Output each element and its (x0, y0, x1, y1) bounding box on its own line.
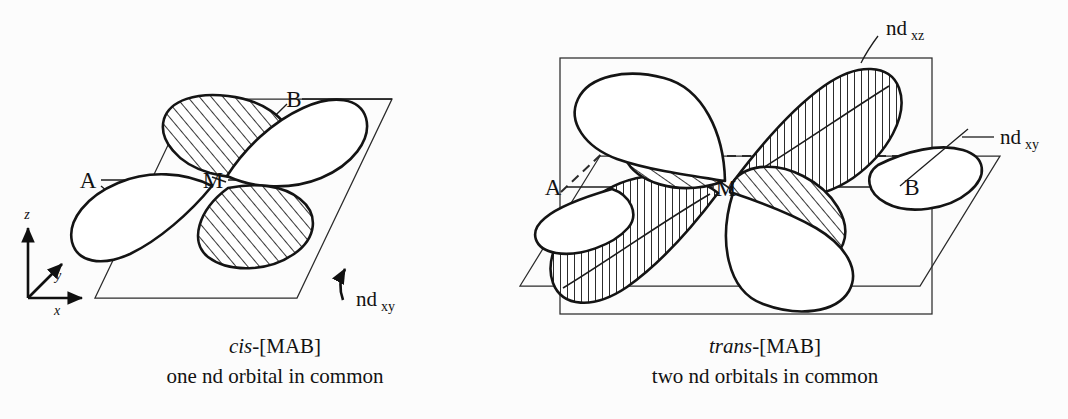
cis-ndxy-pointer-arrow (341, 269, 345, 300)
cis-ndxy-label-text: nd (356, 287, 378, 311)
caption-cis-title: cis-[MAB] (130, 332, 420, 362)
cis-orbital-label-ndxy: nd xy (341, 269, 395, 314)
panel-trans: A M B nd xz nd xy (520, 16, 1039, 314)
panel-cis: A M B z y x nd xy (23, 87, 395, 318)
trans-ndxy-label-text: nd (1000, 125, 1022, 149)
cis-lobe-lower-right-shaded (198, 185, 313, 268)
caption-cis: cis-[MAB] one nd orbital in common (130, 332, 420, 392)
caption-trans-title-italic: trans (709, 334, 752, 358)
caption-cis-subtitle: one nd orbital in common (130, 362, 420, 392)
trans-orbital-label-ndxz: nd xz (861, 16, 924, 63)
trans-lobe-ndxy-far-right-open (869, 147, 982, 209)
cis-ndxy-label-sub: xy (381, 299, 395, 314)
figure-root: A M B z y x nd xy (0, 0, 1068, 419)
caption-cis-title-rest: -[MAB] (252, 334, 321, 358)
trans-ndxz-leader-line (861, 36, 878, 63)
caption-trans-title-rest: -[MAB] (752, 334, 821, 358)
trans-ndxz-label-sub: xz (911, 28, 924, 43)
cis-axis-label-z: z (23, 207, 30, 222)
caption-trans: trans-[MAB] two nd orbitals in common (600, 332, 930, 392)
trans-vertex-label-M: M (716, 176, 736, 201)
cis-axis-label-y: y (53, 268, 62, 283)
cis-vertex-label-B: B (286, 87, 301, 112)
cis-axis-label-x: x (53, 303, 61, 318)
cis-vertex-label-M: M (203, 168, 223, 193)
trans-ndxy-label-sub: xy (1025, 137, 1039, 152)
caption-trans-subtitle: two nd orbitals in common (600, 362, 930, 392)
caption-cis-title-italic: cis (229, 334, 252, 358)
trans-ndxz-label-text: nd (886, 16, 908, 40)
trans-lobe-ndxy-upper-left-open (575, 74, 725, 181)
caption-trans-title: trans-[MAB] (600, 332, 930, 362)
trans-vertex-label-A: A (545, 175, 562, 200)
trans-vertex-label-B: B (904, 175, 919, 200)
cis-vertex-label-A: A (80, 168, 97, 193)
